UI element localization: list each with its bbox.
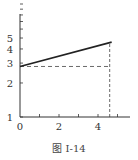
y-tick-label: 4 [7,44,13,55]
x-tick-label: 4 [95,121,101,132]
y-tick-label: 1 [7,112,13,123]
log-linear-chart: 12345 024 [0,0,138,140]
x-tick-labels: 024 [17,121,101,132]
y-tick-label: 5 [7,33,13,44]
x-tick-label: 2 [56,121,62,132]
x-tick-label: 0 [17,121,23,132]
y-tick-labels: 12345 [7,33,13,123]
y-tick-label: 3 [7,58,13,69]
figure-caption: 图 I-14 [0,140,138,155]
y-tick-label: 2 [7,78,13,89]
data-line [20,42,112,66]
